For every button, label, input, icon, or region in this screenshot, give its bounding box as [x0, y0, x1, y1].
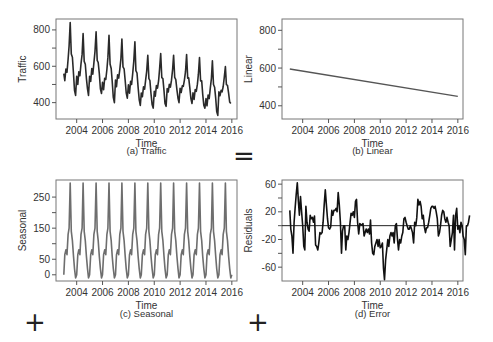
traffic-caption: (a) Traffic: [127, 145, 167, 156]
x-tick-label: 2016: [221, 287, 244, 298]
x-tick-label: 2010: [143, 287, 166, 298]
y-tick-label: 600: [33, 61, 50, 72]
x-tick-label: 2004: [66, 125, 89, 136]
error-panel: -60-2020602004200620082010201220142016Ti…: [243, 179, 470, 319]
equals-operator: =: [233, 141, 255, 171]
x-tick-label: 2012: [169, 287, 192, 298]
seasonal-caption: (c) Seasonal: [120, 308, 173, 319]
error-caption: (d) Error: [355, 308, 390, 319]
y-tick-label: 600: [259, 63, 276, 74]
x-tick-label: 2006: [91, 287, 114, 298]
x-tick-label: 2004: [292, 287, 315, 298]
error-series-line: [290, 183, 470, 280]
linear-caption: (b) Linear: [352, 145, 393, 156]
x-tick-label: 2006: [317, 125, 340, 136]
decomposition-figure: 4006008002004200620082010201220142016Tim…: [0, 0, 493, 342]
x-tick-label: 2012: [169, 125, 192, 136]
x-tick-label: 2012: [395, 287, 418, 298]
plus-operator-1: +: [24, 307, 46, 337]
plus-operator-2: +: [247, 307, 269, 337]
seasonal-panel: 0501502502004200620082010201220142016Tim…: [17, 180, 243, 319]
y-axis-label: Linear: [243, 54, 254, 82]
linear-panel: 4006008002004200620082010201220142016Tim…: [243, 19, 469, 156]
x-tick-label: 2014: [421, 125, 444, 136]
x-tick-label: 2010: [369, 287, 392, 298]
y-tick-label: -60: [262, 262, 277, 273]
x-tick-label: 2014: [421, 287, 444, 298]
y-axis-label: Traffic: [17, 55, 28, 82]
y-tick-label: 800: [259, 25, 276, 36]
x-tick-label: 2014: [195, 125, 218, 136]
y-tick-label: 150: [33, 223, 50, 234]
y-axis-label: Residuals: [243, 209, 254, 253]
seasonal-series-line: [64, 183, 232, 278]
y-tick-label: 20: [265, 206, 277, 217]
linear-plot-frame: [282, 19, 463, 119]
x-tick-label: 2010: [369, 125, 392, 136]
linear-series-line: [290, 69, 458, 96]
x-tick-label: 2004: [292, 125, 315, 136]
x-tick-label: 2010: [143, 125, 166, 136]
y-tick-label: 400: [33, 97, 50, 108]
x-tick-label: 2008: [343, 287, 366, 298]
y-tick-label: 0: [44, 269, 50, 280]
x-tick-label: 2006: [317, 287, 340, 298]
x-tick-label: 2012: [395, 125, 418, 136]
y-tick-label: 50: [39, 254, 51, 265]
x-tick-label: 2014: [195, 287, 218, 298]
x-tick-label: 2008: [117, 125, 140, 136]
x-tick-label: 2016: [447, 287, 470, 298]
y-tick-label: 800: [33, 24, 50, 35]
x-tick-label: 2016: [221, 125, 244, 136]
y-tick-label: 60: [265, 179, 277, 190]
y-tick-label: -20: [262, 234, 277, 245]
x-tick-label: 2008: [343, 125, 366, 136]
x-tick-label: 2004: [66, 287, 89, 298]
y-tick-label: 250: [33, 192, 50, 203]
y-axis-label: Seasonal: [17, 210, 28, 252]
x-tick-label: 2006: [91, 125, 114, 136]
x-tick-label: 2016: [447, 125, 470, 136]
traffic-panel: 4006008002004200620082010201220142016Tim…: [17, 19, 243, 156]
y-tick-label: 400: [259, 100, 276, 111]
traffic-series-line: [64, 23, 231, 116]
x-tick-label: 2008: [117, 287, 140, 298]
